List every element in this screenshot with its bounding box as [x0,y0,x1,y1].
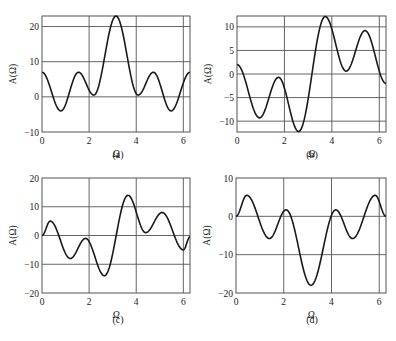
y-tick-label: −20 [24,289,39,299]
y-axis-label: A(Ω) [8,225,19,245]
x-tick-label: 4 [134,136,139,146]
x-tick-label: 0 [40,297,45,307]
x-tick-labels: 0246 [40,297,186,307]
x-tick-label: 4 [329,297,334,307]
y-tick-label: −5 [224,93,234,103]
amplitude-curve [236,195,386,285]
y-tick-label: −10 [218,250,233,260]
x-tick-label: 6 [377,136,382,146]
y-tick-label: 10 [224,174,234,184]
y-tick-labels: −20−10010 [218,174,233,299]
x-tick-labels: 0246 [40,136,186,146]
plot-frame [42,16,190,132]
y-tick-label: 5 [229,46,234,56]
gridlines [236,178,386,293]
subplot-b: 0246−10−50510ΩA(Ω)(b) [203,16,386,161]
subplot-caption: (d) [306,314,318,326]
x-tick-label: 2 [87,136,92,146]
subplot-caption: (c) [112,314,123,326]
y-tick-label: 0 [34,92,39,102]
y-tick-label: 0 [229,70,234,80]
y-tick-label: 10 [225,22,235,32]
x-tick-label: 4 [329,136,334,146]
y-tick-label: 20 [30,22,40,32]
y-tick-label: −10 [219,117,234,127]
plot-frame [236,178,386,293]
y-tick-labels: −20−1001020 [24,174,39,299]
y-tick-label: 20 [30,174,40,184]
y-axis-label: A(Ω) [202,225,213,245]
subplot-a: 0246−1001020ΩA(Ω)(a) [8,16,190,161]
y-tick-label: −10 [24,260,39,270]
x-tick-label: 6 [377,297,382,307]
x-tick-label: 0 [40,136,45,146]
x-tick-label: 0 [234,297,239,307]
subplot-c: 0246−20−1001020ΩA(Ω)(c) [8,174,190,327]
y-tick-label: 0 [34,231,39,241]
y-axis-label: A(Ω) [8,64,19,84]
x-tick-label: 2 [87,297,92,307]
y-tick-labels: −1001020 [24,22,39,137]
y-axis-label: A(Ω) [203,64,214,84]
x-tick-label: 2 [282,136,287,146]
figure-canvas: 0246−1001020ΩA(Ω)(a) 0246−10−50510ΩA(Ω)(… [0,0,396,341]
y-tick-label: −10 [24,128,39,138]
y-tick-label: −20 [218,289,233,299]
x-tick-label: 6 [181,136,186,146]
x-tick-label: 0 [235,136,240,146]
subplot-d: 0246−20−10010ΩA(Ω)(d) [202,174,386,327]
y-tick-label: 10 [30,202,40,212]
y-tick-label: 10 [30,57,40,67]
x-tick-label: 4 [134,297,139,307]
y-tick-labels: −10−50510 [219,22,234,126]
x-tick-labels: 0246 [234,297,382,307]
x-tick-labels: 0246 [235,136,382,146]
x-tick-label: 2 [281,297,286,307]
subplot-caption: (a) [112,149,123,161]
gridlines [42,16,190,132]
y-tick-label: 0 [228,212,233,222]
x-tick-label: 6 [181,297,186,307]
subplot-caption: (b) [306,149,318,161]
